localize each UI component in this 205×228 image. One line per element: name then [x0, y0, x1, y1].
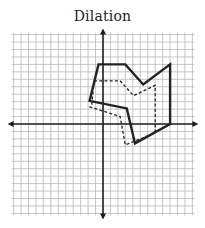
coordinate-plane: [0, 0, 205, 228]
dilated-figure-dashed: [90, 81, 155, 145]
y-axis-down-arrow-icon: [100, 213, 106, 219]
x-axis-right-arrow-icon: [192, 121, 198, 127]
x-axis-left-arrow-icon: [8, 121, 14, 127]
y-axis-up-arrow-icon: [100, 29, 106, 35]
